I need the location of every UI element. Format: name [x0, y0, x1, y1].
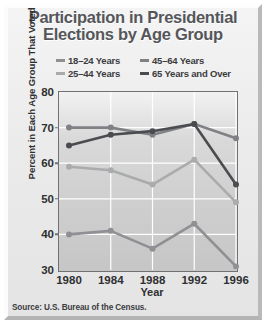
legend-line-swatch-icon: [140, 72, 149, 75]
legend-item: 25–44 Years: [56, 68, 140, 79]
series-data-point: [233, 135, 239, 141]
y-axis-tick-label: 70: [41, 122, 54, 134]
series-data-point: [191, 221, 197, 227]
series-data-point: [108, 125, 114, 131]
title-line-2: Elections by Age Group: [0, 26, 266, 43]
page-title: Participation in Presidential Elections …: [0, 9, 266, 43]
y-axis-tick-label: 50: [41, 193, 54, 205]
x-axis-tick-label: 1988: [140, 274, 166, 286]
legend-label: 45–64 Years: [152, 55, 204, 66]
x-axis-tick-label: 1996: [223, 274, 249, 286]
y-axis-tick-mark: [55, 198, 59, 200]
legend-item: 65 Years and Over: [140, 68, 246, 79]
plot-lines: [59, 92, 236, 270]
title-line-1: Participation in Presidential: [0, 9, 266, 26]
legend-label: 25–44 Years: [68, 68, 120, 79]
plot-area: 30405060708019801984198819921996: [58, 91, 238, 272]
series-data-point: [108, 228, 114, 234]
legend-line-swatch-icon: [56, 59, 65, 62]
series-data-point: [191, 121, 197, 127]
series-data-point: [191, 157, 197, 163]
y-axis-tick-mark: [55, 234, 59, 236]
series-data-point: [108, 132, 114, 138]
x-axis-title: Year: [56, 286, 248, 298]
y-axis-tick-mark: [55, 162, 59, 164]
series-data-point: [66, 164, 72, 170]
series-data-point: [233, 182, 239, 188]
legend-label: 65 Years and Over: [152, 68, 231, 79]
x-axis-tick-label: 1992: [181, 274, 207, 286]
series-data-point: [233, 263, 239, 269]
chart-figure: Participation in Presidential Elections …: [0, 0, 266, 324]
x-axis-tick-label: 1980: [56, 274, 82, 286]
series-data-point: [66, 125, 72, 131]
legend-item: 45–64 Years: [140, 55, 246, 66]
source-note: Source: U.S. Bureau of the Census.: [12, 303, 146, 312]
series-data-point: [66, 142, 72, 148]
legend-item: 18–24 Years: [56, 55, 140, 66]
legend-line-swatch-icon: [56, 72, 65, 75]
legend-label: 18–24 Years: [68, 55, 120, 66]
x-axis-tick-label: 1984: [98, 274, 124, 286]
chart-legend: 18–24 Years45–64 Years25–44 Years65 Year…: [56, 54, 246, 80]
y-axis-tick-label: 40: [41, 228, 54, 240]
series-data-point: [150, 182, 156, 188]
series-data-point: [233, 199, 239, 205]
legend-line-swatch-icon: [140, 59, 149, 62]
y-axis-tick-label: 60: [41, 157, 54, 169]
series-data-point: [150, 246, 156, 252]
y-axis-tick-label: 30: [41, 264, 54, 276]
y-axis-tick-label: 80: [41, 86, 54, 98]
y-axis-tick-mark: [55, 127, 59, 129]
y-axis-title: Percent in Each Age Group That Voted: [26, 1, 37, 187]
series-data-point: [66, 231, 72, 237]
series-data-point: [150, 128, 156, 134]
series-data-point: [108, 167, 114, 173]
